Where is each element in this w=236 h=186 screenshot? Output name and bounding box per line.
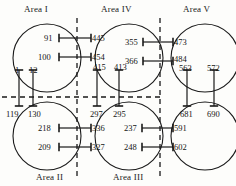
node-number-label: 327 [92,143,105,152]
node-number-label: 209 [38,143,51,152]
node-number-label: 591 [174,124,187,133]
area-label: Area IV [101,4,132,14]
area-label: Area III [113,172,143,182]
node-number-label: 602 [174,143,187,152]
node-number-label: 119 [6,110,18,119]
node-number-label: 681 [180,110,193,119]
divider-group [2,18,162,178]
node-number-label: 572 [207,64,220,73]
node-number-label: 366 [125,57,138,66]
area-label: Area I [24,4,48,14]
node-number-label: 690 [207,110,220,119]
node-number-label: 1 [15,66,19,75]
node-number-label: 248 [124,143,137,152]
node-number-label: 454 [92,53,105,62]
node-number-label: 100 [38,53,51,62]
node-number-label: 91 [44,34,53,43]
node-number-label: 297 [90,110,103,119]
area-label: Area V [183,4,210,14]
area-circle [13,102,81,170]
diagram-svg [0,0,236,186]
node-number-label: 473 [174,38,187,47]
node-number-label: 237 [124,124,137,133]
area-circle [95,102,163,170]
node-number-label: 295 [113,110,126,119]
node-number-label: 218 [38,124,51,133]
node-number-label: 12 [29,66,38,75]
node-number-label: 336 [92,124,105,133]
node-number-label: 130 [28,110,41,119]
node-number-label: 445 [92,34,105,43]
node-number-label: 355 [125,38,138,47]
node-number-label: 563 [179,64,192,73]
area-label: Area II [36,172,63,182]
diagram-canvas: Area IArea IVArea VArea IIArea III 91100… [0,0,236,186]
node-number-label: 415 [93,63,106,72]
